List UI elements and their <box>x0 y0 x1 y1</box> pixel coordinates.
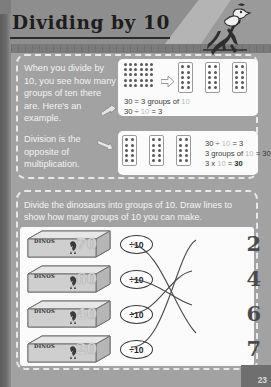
dot <box>214 71 217 74</box>
dot <box>140 79 143 82</box>
dot <box>241 76 244 79</box>
example-2-equation-1: 30 ÷ 10 = 3 <box>205 139 243 149</box>
dot <box>134 84 137 87</box>
group-of-ten-4 <box>122 135 137 166</box>
dot <box>235 71 238 74</box>
dot <box>140 68 143 71</box>
dot <box>145 68 148 71</box>
dot <box>131 154 134 157</box>
dot <box>208 81 211 84</box>
dot <box>235 81 238 84</box>
dot <box>214 81 217 84</box>
dot <box>158 154 161 157</box>
group-of-ten-3 <box>232 62 247 93</box>
example-2-equation-2: 3 groups of 10 = 30 <box>205 149 271 159</box>
dot <box>181 76 184 79</box>
box-brand-label: DINOS <box>34 273 55 279</box>
box-quantity: 60 <box>76 270 97 288</box>
dinosaur-box-icon <box>26 229 112 259</box>
dinosaur-box-row: DINOS70÷10 <box>20 227 254 261</box>
group-of-ten-2 <box>205 62 220 93</box>
eq1-part-a: 30 = 3 groups of <box>124 97 181 106</box>
example-1-equation-2: 30 ÷ 10 = 3 <box>124 107 162 117</box>
dot <box>179 138 182 141</box>
dinosaur-box-row: DINOS60÷10 <box>20 262 254 296</box>
dot <box>187 76 190 79</box>
dinosaur-box-row: DINOS20÷10 <box>20 332 254 366</box>
dot-array-thirty <box>124 63 153 87</box>
arrow-pointer-icon-1 <box>100 104 116 117</box>
dot <box>145 63 148 66</box>
dot <box>129 63 132 66</box>
dot <box>124 68 127 71</box>
worksheet-page: Dividing by 10 When you divide by 10, yo… <box>0 0 271 387</box>
dot <box>134 63 137 66</box>
dot <box>187 71 190 74</box>
eq5-d: 30 <box>234 159 242 168</box>
dot <box>134 79 137 82</box>
dot <box>134 68 137 71</box>
eq4-c: = 30 <box>254 149 271 158</box>
arrow-pointer-icon-2 <box>96 138 114 151</box>
answer-number: 2 <box>246 231 261 256</box>
dot <box>124 84 127 87</box>
dot <box>214 76 217 79</box>
page-number: 23 <box>258 375 267 385</box>
dot <box>125 144 128 147</box>
dot <box>150 68 153 71</box>
dot <box>125 154 128 157</box>
divide-by-ten-badge: ÷10 <box>120 305 153 324</box>
eq3-a: 30 ÷ <box>205 139 222 148</box>
dot <box>131 144 134 147</box>
box-quantity: 20 <box>76 340 97 358</box>
dot <box>235 86 238 89</box>
box-brand-label: DINOS <box>34 343 55 349</box>
dot <box>208 65 211 68</box>
divide-by-ten-badge: ÷10 <box>120 270 153 289</box>
dot <box>131 138 134 141</box>
eq4-b: 10 <box>245 149 253 158</box>
dot <box>214 86 217 89</box>
dot <box>208 86 211 89</box>
dot <box>241 86 244 89</box>
dot <box>181 71 184 74</box>
dot <box>150 79 153 82</box>
title-underline <box>10 37 170 39</box>
dot <box>125 138 128 141</box>
dot <box>152 144 155 147</box>
dot <box>152 138 155 141</box>
dinosaur-box-icon <box>26 299 112 329</box>
dot <box>181 65 184 68</box>
arrow-right-icon <box>161 76 174 87</box>
dot <box>140 84 143 87</box>
dot <box>124 79 127 82</box>
answer-number: 7 <box>246 336 261 361</box>
dot <box>181 86 184 89</box>
dot <box>158 144 161 147</box>
dot <box>140 73 143 76</box>
dot <box>150 63 153 66</box>
dot <box>158 159 161 162</box>
eq4-a: 3 groups of <box>205 149 245 158</box>
group-of-ten-1 <box>178 62 193 93</box>
dot <box>131 159 134 162</box>
dinosaur-box-icon <box>26 264 112 294</box>
answer-number: 4 <box>246 266 261 291</box>
dot <box>158 138 161 141</box>
dot <box>129 84 132 87</box>
example-1-equation-1: 30 = 3 groups of 10 <box>124 97 190 107</box>
eq2-part-c: = 3 <box>149 107 162 116</box>
dot <box>241 81 244 84</box>
dot <box>125 159 128 162</box>
dot <box>124 63 127 66</box>
group-of-ten-5 <box>149 135 164 166</box>
dot <box>145 73 148 76</box>
dot <box>129 73 132 76</box>
dot <box>134 73 137 76</box>
divide-by-ten-badge: ÷10 <box>120 235 153 254</box>
dot <box>152 154 155 157</box>
dot <box>208 71 211 74</box>
dot <box>241 71 244 74</box>
box-quantity: 40 <box>76 305 97 323</box>
dot <box>241 65 244 68</box>
